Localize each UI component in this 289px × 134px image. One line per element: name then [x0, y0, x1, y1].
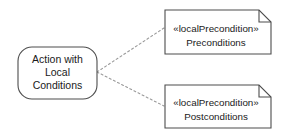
- uml-diagram-canvas: Action with Local Conditions «localPreco…: [0, 0, 289, 134]
- precondition-note-stereotype: «localPrecondition»: [173, 23, 259, 34]
- action-node-line-2: Local: [45, 66, 70, 78]
- connector-to-postcondition-note: [97, 72, 164, 106]
- connector-to-precondition-note: [97, 28, 164, 72]
- precondition-note[interactable]: «localPrecondition» Preconditions: [165, 10, 271, 54]
- action-node-line-3: Conditions: [33, 79, 83, 91]
- postcondition-note-body: Postconditions: [184, 111, 248, 122]
- postcondition-note[interactable]: «localPrecondition» Postconditions: [165, 85, 271, 128]
- postcondition-note-stereotype: «localPrecondition»: [173, 97, 259, 108]
- action-node-line-1: Action with: [32, 53, 83, 65]
- precondition-note-body: Preconditions: [186, 37, 245, 48]
- action-with-local-conditions[interactable]: Action with Local Conditions: [18, 47, 97, 99]
- diagram-surface: Action with Local Conditions «localPreco…: [0, 0, 289, 134]
